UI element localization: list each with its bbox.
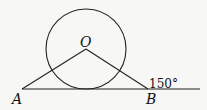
label-o: O <box>80 34 92 50</box>
segment-ob <box>86 49 148 89</box>
label-b: B <box>145 91 156 107</box>
geometry-diagram: O A B 150° <box>0 0 207 110</box>
segment-oa <box>22 49 86 89</box>
label-a: A <box>10 91 22 107</box>
angle-label-150: 150° <box>149 77 178 91</box>
